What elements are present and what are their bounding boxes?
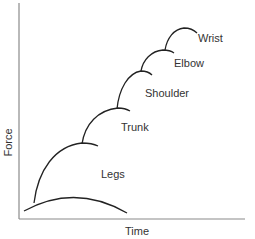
segment-label-shoulder: Shoulder [145,88,189,99]
elbow-curve [141,50,174,71]
segment-label-wrist: Wrist [198,33,223,44]
wrist-curve [165,28,197,50]
segment-label-legs: Legs [101,169,125,180]
legs-curve [34,143,98,203]
segment-label-elbow: Elbow [174,58,204,69]
segment-label-trunk: Trunk [121,122,149,133]
x-axis-label: Time [125,226,149,237]
y-axis-label: Force [3,128,14,156]
base-arc-curve [24,197,127,213]
